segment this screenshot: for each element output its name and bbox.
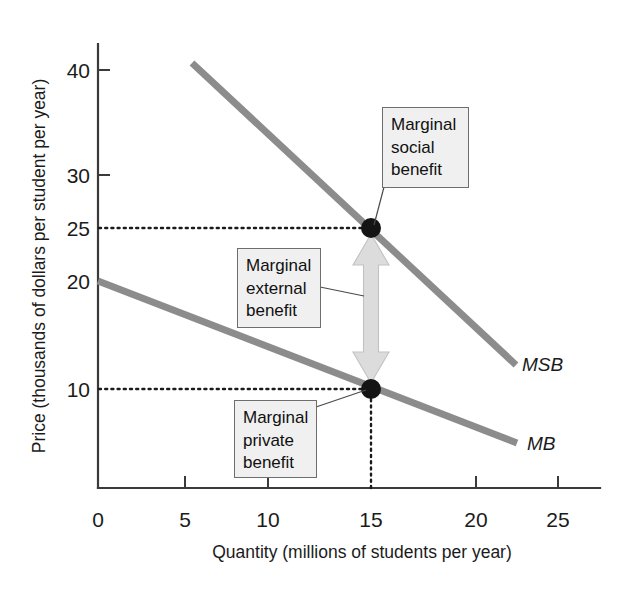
x-axis-title: Quantity (millions of students per year) [212, 542, 512, 562]
msb-curve-label: MSB [522, 354, 564, 375]
y-axis-title: Price (thousands of dollars per student … [29, 79, 49, 454]
y-tick-label-20: 20 [67, 270, 90, 293]
chart-figure: 40 30 25 20 10 0 5 10 15 20 25 MSB MB Qu… [0, 0, 631, 590]
x-tick-label-10: 10 [256, 508, 279, 531]
external-benefit-arrow [353, 234, 389, 383]
mb-point-dot [361, 379, 381, 399]
callout-marginal-social-benefit: Marginal social benefit [382, 107, 469, 188]
y-tick-label-30: 30 [67, 164, 90, 187]
y-tick-label-40: 40 [67, 59, 90, 82]
mb-curve-label: MB [527, 433, 556, 454]
y-tick-label-10: 10 [67, 378, 90, 401]
external-callout-leader [320, 287, 364, 296]
y-tick-label-25: 25 [67, 217, 90, 240]
x-tick-label-5: 5 [179, 508, 191, 531]
x-tick-label-15: 15 [359, 508, 382, 531]
callout-marginal-private-benefit: Marginal private benefit [234, 400, 317, 478]
x-tick-label-0: 0 [92, 508, 104, 531]
x-tick-label-25: 25 [546, 508, 569, 531]
social-callout-leader [374, 187, 384, 225]
private-callout-leader [316, 390, 366, 407]
msb-point-dot [361, 218, 381, 238]
callout-marginal-external-benefit: Marginal external benefit [237, 248, 321, 328]
external-benefit-arrow-shape [353, 234, 389, 383]
x-tick-label-20: 20 [464, 508, 487, 531]
